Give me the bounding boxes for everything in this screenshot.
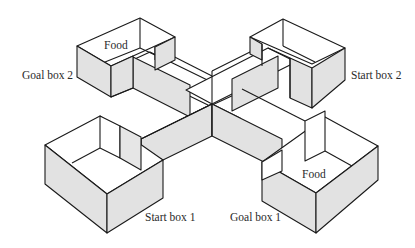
food-label-goal-box-1: Food [302,168,326,180]
start-box-2-label: Start box 2 [351,69,402,81]
food-label-goal-box-2: Food [104,39,128,51]
goal-box-2-label: Goal box 2 [22,69,73,81]
plus-maze-diagram: Food Goal box 2 Start box 2 Start box 1 … [0,0,415,248]
goal-box-1-label: Goal box 1 [230,211,281,223]
start-box-1-label: Start box 1 [145,211,196,223]
